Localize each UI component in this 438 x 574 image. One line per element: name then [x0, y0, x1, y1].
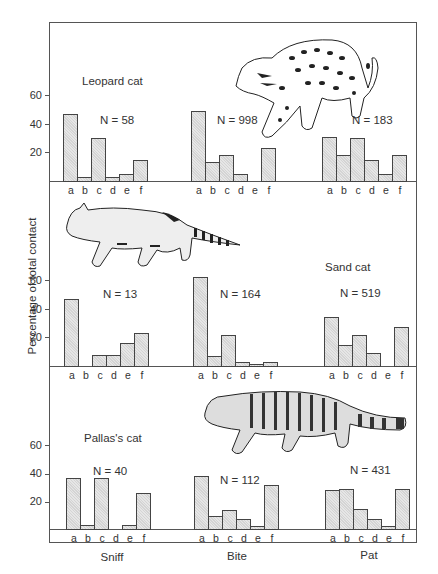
bar [325, 490, 340, 530]
x-tick-label: e [248, 184, 262, 196]
bar [122, 525, 137, 530]
species-label-pallas-cat: Pallas's cat [84, 432, 142, 444]
bar [119, 174, 134, 182]
bar [394, 327, 409, 367]
x-tick-label: c [354, 532, 368, 544]
y-tickmark [45, 95, 49, 96]
x-tick-label: b [340, 532, 354, 544]
x-tick-label: d [236, 369, 250, 381]
bar [133, 160, 148, 182]
bar [63, 114, 78, 182]
x-tick-label: d [368, 532, 382, 544]
bar [66, 478, 81, 530]
x-tick-label: d [237, 532, 251, 544]
n-label: N = 164 [220, 288, 261, 300]
bar [194, 476, 209, 530]
n-label: N = 58 [100, 114, 134, 126]
y-tick: 20 [12, 495, 42, 507]
bar [221, 335, 236, 367]
x-tick-label: b [209, 532, 223, 544]
n-label: N = 112 [220, 474, 260, 486]
bar [219, 155, 234, 182]
figure: Percentage of total contact [0, 0, 438, 574]
x-tick-label: f [135, 369, 149, 381]
bar [222, 510, 237, 530]
bar [381, 526, 396, 530]
bar [366, 353, 381, 367]
n-label: N = 431 [350, 464, 391, 476]
x-tick-label: e [120, 184, 134, 196]
x-tick-label: c [220, 184, 234, 196]
n-label: N = 998 [217, 114, 258, 126]
bar [250, 526, 265, 530]
x-tick-label: a [192, 184, 206, 196]
x-tick-label: b [81, 532, 95, 544]
bar [94, 478, 109, 530]
bar [249, 364, 264, 367]
x-tick-label: e [379, 184, 393, 196]
y-tick: 20 [12, 146, 42, 158]
x-tick-label: a [65, 369, 79, 381]
y-tick: 40 [12, 303, 42, 315]
bar [364, 160, 379, 182]
bar [395, 489, 410, 530]
y-tick: 60 [12, 274, 42, 286]
x-tick-label: c [95, 532, 109, 544]
y-tickmark [45, 502, 49, 503]
bar [91, 138, 106, 182]
x-tick-label: a [325, 369, 339, 381]
x-tick-label: e [251, 532, 265, 544]
x-tick-label: e [123, 532, 137, 544]
bar [233, 174, 248, 182]
x-tick-label: c [351, 184, 365, 196]
bar [236, 519, 251, 530]
bar [322, 137, 337, 182]
x-tick-label: b [337, 184, 351, 196]
species-label-leopard-cat: Leopard cat [82, 75, 143, 87]
y-tick: 60 [12, 439, 42, 451]
n-label: N = 40 [93, 465, 127, 477]
x-tick-label: f [264, 369, 278, 381]
y-tick: 20 [12, 331, 42, 343]
x-tick-label: e [121, 369, 135, 381]
bar [353, 509, 368, 530]
bar [261, 148, 276, 182]
y-tickmark [45, 337, 49, 338]
bar [235, 362, 250, 367]
x-tick-label: e [250, 369, 264, 381]
bar [264, 485, 279, 530]
x-tick-label: e [381, 369, 395, 381]
x-tick-label: f [262, 184, 276, 196]
bar [336, 155, 351, 182]
x-tick-label: f [137, 532, 151, 544]
bar [120, 343, 135, 367]
x-tick-label: f [393, 184, 407, 196]
x-tick-label: f [395, 369, 409, 381]
x-tick-label: a [326, 532, 340, 544]
x-tick-label: f [134, 184, 148, 196]
bar [207, 356, 222, 367]
x-tick-label: b [208, 369, 222, 381]
bar [191, 111, 206, 182]
bar [92, 355, 107, 367]
x-group-label-sniff: Sniff [82, 551, 142, 563]
x-tick-label: f [265, 532, 279, 544]
x-tick-label: d [234, 184, 248, 196]
x-tick-label: d [106, 184, 120, 196]
y-tickmark [45, 124, 49, 125]
x-tick-label: d [367, 369, 381, 381]
n-label: N = 519 [340, 287, 381, 299]
bar [339, 489, 354, 530]
bar [367, 519, 382, 530]
x-group-label-bite: Bite [207, 550, 267, 562]
x-tick-label: c [222, 369, 236, 381]
y-tickmark [45, 152, 49, 153]
x-group-label-pat: Pat [339, 549, 399, 561]
y-tickmark [45, 309, 49, 310]
bar [136, 493, 151, 530]
bar [105, 177, 120, 182]
x-tick-label: b [206, 184, 220, 196]
pallas-cat-illustration [200, 388, 410, 456]
y-tick: 40 [12, 118, 42, 130]
x-tick-label: c [353, 369, 367, 381]
